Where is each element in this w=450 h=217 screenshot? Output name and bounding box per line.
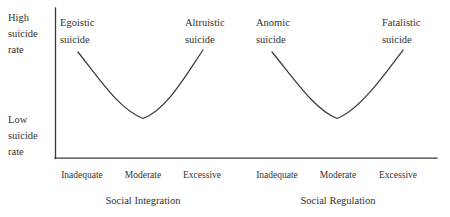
y-axis-low-label-line3: rate: [8, 144, 38, 160]
axis-title-social-integration: Social Integration: [106, 195, 181, 206]
axis-title-social-regulation: Social Regulation: [301, 195, 376, 206]
label-anomic-suicide-line1: Anomic: [256, 14, 290, 31]
tick-label-integration-inadequate: Inadequate: [61, 170, 103, 180]
suicide-typology-figure: High suicide rate Low suicide rate Egois…: [0, 0, 450, 217]
tick-label-regulation-moderate: Moderate: [320, 170, 356, 180]
label-egoistic-suicide-line2: suicide: [60, 31, 94, 48]
curve-social-regulation: [272, 50, 403, 119]
curve-social-integration: [78, 50, 203, 119]
label-fatalistic-suicide-line1: Fatalistic: [382, 14, 421, 31]
label-anomic-suicide-line2: suicide: [256, 31, 290, 48]
y-axis-low-label: Low suicide rate: [8, 112, 38, 160]
label-anomic-suicide: Anomic suicide: [256, 14, 290, 48]
y-axis-high-label: High suicide rate: [8, 10, 38, 58]
y-axis-high-label-line2: suicide: [8, 26, 38, 42]
label-fatalistic-suicide-line2: suicide: [382, 31, 421, 48]
y-axis-high-label-line1: High: [8, 10, 38, 26]
tick-label-integration-moderate: Moderate: [125, 170, 161, 180]
y-axis-high-label-line3: rate: [8, 42, 38, 58]
label-egoistic-suicide: Egoistic suicide: [60, 14, 94, 48]
label-altruistic-suicide: Altruistic suicide: [185, 14, 225, 48]
tick-label-integration-excessive: Excessive: [183, 170, 221, 180]
y-axis-low-label-line1: Low: [8, 112, 38, 128]
label-altruistic-suicide-line1: Altruistic: [185, 14, 225, 31]
label-fatalistic-suicide: Fatalistic suicide: [382, 14, 421, 48]
tick-label-regulation-excessive: Excessive: [379, 170, 417, 180]
y-axis-low-label-line2: suicide: [8, 128, 38, 144]
tick-label-regulation-inadequate: Inadequate: [256, 170, 298, 180]
label-altruistic-suicide-line2: suicide: [185, 31, 225, 48]
label-egoistic-suicide-line1: Egoistic: [60, 14, 94, 31]
